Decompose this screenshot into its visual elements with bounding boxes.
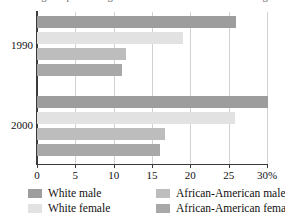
x-tick-mark (190, 164, 191, 168)
category-label-2000: 2000 (0, 119, 33, 131)
legend-item[interactable]: African-American female (156, 201, 285, 215)
legend-column-1: White maleWhite female (28, 186, 110, 216)
bar (37, 16, 236, 28)
x-tick-mark (229, 164, 230, 168)
bar (37, 112, 235, 124)
x-tick-label: 20 (175, 169, 205, 181)
x-tick-label: 30% (252, 169, 282, 181)
bar (37, 144, 160, 156)
legend-item[interactable]: White male (28, 186, 110, 200)
bar (37, 96, 268, 108)
x-tick-label: 0 (22, 169, 52, 181)
legend-swatch-icon (28, 189, 42, 198)
bar (37, 64, 122, 76)
gridline (267, 12, 268, 164)
bar (37, 128, 165, 140)
x-tick-mark (114, 164, 115, 168)
bar (37, 32, 183, 44)
x-tick-mark (267, 164, 268, 168)
legend-column-2: African-American maleAfrican-American fe… (156, 186, 285, 216)
chart-title: Percentage of persons age 25 and over wi… (0, 0, 285, 2)
gridline (229, 12, 230, 164)
legend-label: White male (48, 187, 101, 199)
x-tick-label: 15 (137, 169, 167, 181)
x-tick-label: 5 (60, 169, 90, 181)
x-tick-mark (152, 164, 153, 168)
x-tick-label: 25 (214, 169, 244, 181)
legend-item[interactable]: African-American male (156, 186, 285, 200)
x-tick-mark (75, 164, 76, 168)
x-tick-mark (37, 164, 38, 168)
legend-swatch-icon (156, 204, 170, 213)
legend-label: African-American male (176, 187, 285, 199)
legend-swatch-icon (156, 189, 170, 198)
legend-label: White female (48, 202, 110, 214)
legend-swatch-icon (28, 204, 42, 213)
legend-label: African-American female (176, 202, 285, 214)
category-label-1990: 1990 (0, 39, 33, 51)
plot-area (37, 12, 267, 164)
bar (37, 48, 126, 60)
x-tick-label: 10 (99, 169, 129, 181)
legend-item[interactable]: White female (28, 201, 110, 215)
gridline (190, 12, 191, 164)
bar-chart: Percentage of persons age 25 and over wi… (0, 0, 285, 216)
